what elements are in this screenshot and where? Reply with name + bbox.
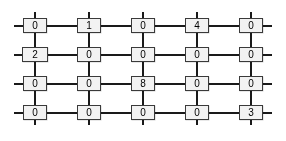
grid-cell[interactable]: 0 <box>239 47 263 62</box>
grid-cell[interactable]: 4 <box>185 18 209 33</box>
grid-cell[interactable]: 2 <box>22 47 48 62</box>
grid-diagram: 0 1 0 4 0 2 0 0 0 0 0 0 8 0 0 0 <box>0 0 286 141</box>
grid-cell[interactable]: 0 <box>23 18 47 33</box>
grid-cell-value: 3 <box>240 106 262 119</box>
grid-cell[interactable]: 8 <box>131 76 155 91</box>
grid-cell-value: 4 <box>186 19 208 32</box>
grid-cell[interactable]: 0 <box>77 105 101 120</box>
grid-cell[interactable]: 0 <box>131 105 155 120</box>
grid-cell[interactable]: 3 <box>239 105 263 120</box>
grid-cell-value: 0 <box>78 48 100 61</box>
grid-cell-value: 2 <box>23 48 47 61</box>
grid-cell-value: 0 <box>24 106 46 119</box>
grid-cell[interactable]: 0 <box>23 105 47 120</box>
grid-cell-value: 0 <box>132 19 154 32</box>
grid-cell-value: 0 <box>186 106 208 119</box>
grid-cell[interactable]: 0 <box>131 18 155 33</box>
grid-cell-value: 0 <box>240 77 262 90</box>
grid-cell-value: 0 <box>78 77 100 90</box>
grid-cell[interactable]: 0 <box>185 105 209 120</box>
grid-cell[interactable]: 0 <box>185 76 209 91</box>
grid-cell-value: 0 <box>24 19 46 32</box>
grid-cell[interactable]: 0 <box>77 76 101 91</box>
grid-cell-value: 0 <box>240 48 262 61</box>
grid-cell[interactable]: 1 <box>77 18 101 33</box>
grid-cell-value: 0 <box>78 106 100 119</box>
grid-cell-value: 8 <box>132 77 154 90</box>
grid-cell-value: 0 <box>132 48 154 61</box>
grid-cell-value: 0 <box>24 77 46 90</box>
grid-cell[interactable]: 0 <box>239 18 263 33</box>
grid-cell-value: 0 <box>132 106 154 119</box>
grid-cell[interactable]: 0 <box>239 76 263 91</box>
grid-cell[interactable]: 0 <box>185 47 209 62</box>
grid-cell[interactable]: 0 <box>77 47 101 62</box>
grid-cell-value: 0 <box>186 77 208 90</box>
grid-cell-value: 0 <box>240 19 262 32</box>
grid-cell-value: 1 <box>78 19 100 32</box>
grid-cell[interactable]: 0 <box>23 76 47 91</box>
grid-cell-value: 0 <box>186 48 208 61</box>
grid-cell[interactable]: 0 <box>131 47 155 62</box>
